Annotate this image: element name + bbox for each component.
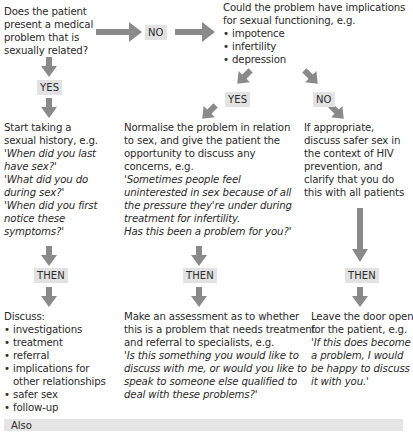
arrow-down-icon	[41, 98, 57, 118]
safer-sex-box: If appropriate, discuss safer sex in the…	[304, 121, 404, 199]
implications-list: impotence infertility depression	[223, 27, 405, 66]
list-item: investigations	[4, 323, 106, 336]
sexual-history-box: Start taking a sexual history, e.g. 'Whe…	[4, 121, 98, 238]
list-item: depression	[223, 53, 405, 66]
arrow-down-icon	[191, 287, 207, 307]
no-label-top: NO	[145, 25, 167, 40]
list-item: impotence	[223, 27, 405, 40]
list-item: implications for other relationships	[4, 362, 106, 388]
arrow-down-icon	[191, 246, 207, 266]
list-item: follow-up	[4, 401, 106, 414]
arrow-right-icon	[175, 22, 215, 42]
arrow-down-right-icon	[299, 65, 324, 90]
also-box: Also	[4, 419, 403, 431]
then-label-mid: THEN	[183, 268, 217, 283]
arrow-down-icon	[41, 57, 57, 77]
assessment-box: Make an assessment as to whether this is…	[124, 310, 315, 401]
yes-label-mid: YES	[225, 92, 250, 107]
arrow-down-icon	[41, 287, 57, 307]
list-item: treatment	[4, 336, 106, 349]
start-question: Does the patient present a medical probl…	[4, 5, 93, 57]
also-label: Also	[11, 419, 32, 432]
discuss-list: investigations treatment referral implic…	[4, 323, 106, 414]
arrow-down-icon	[352, 208, 368, 262]
list-item: referral	[4, 349, 106, 362]
then-label-left: THEN	[34, 268, 68, 283]
list-item: infertility	[223, 40, 405, 53]
door-open-box: Leave the door open for the patient, e.g…	[311, 310, 413, 388]
yes-label-left: YES	[37, 80, 62, 95]
implications-question: Could the problem have implications for …	[223, 1, 405, 66]
arrow-down-left-icon	[232, 65, 257, 90]
discuss-box: Discuss: investigations treatment referr…	[4, 310, 106, 414]
arrow-right-icon	[96, 22, 142, 42]
list-item: safer sex	[4, 388, 106, 401]
arrow-down-icon	[41, 246, 57, 266]
no-label-right: NO	[313, 92, 335, 107]
arrow-down-icon	[352, 287, 368, 307]
then-label-right: THEN	[345, 268, 379, 283]
normalise-box: Normalise the problem in relation to sex…	[124, 121, 292, 238]
